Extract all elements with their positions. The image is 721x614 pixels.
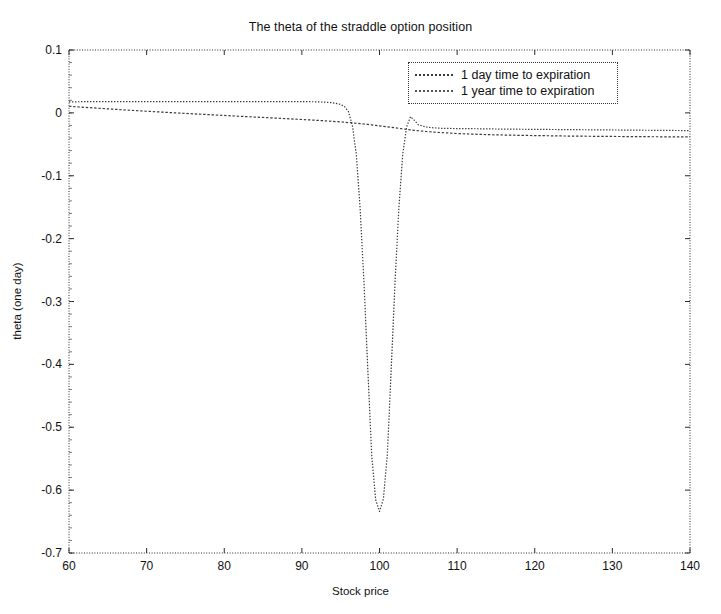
data-series xyxy=(69,102,690,512)
legend: 1 day time to expiration 1 year time to … xyxy=(408,62,618,104)
x-tick-label: 70 xyxy=(140,559,153,573)
x-axis-label: Stock price xyxy=(0,585,721,597)
y-tick-label: -0.5 xyxy=(14,420,62,434)
legend-item-1-day: 1 day time to expiration xyxy=(415,67,609,83)
legend-label-1-year: 1 year time to expiration xyxy=(461,84,594,98)
x-tick-label: 140 xyxy=(680,559,700,573)
legend-line-sample-dashed-icon xyxy=(415,90,453,92)
x-tick-label: 80 xyxy=(218,559,231,573)
legend-label-1-day: 1 day time to expiration xyxy=(461,68,590,82)
y-tick-label: -0.1 xyxy=(14,169,62,183)
x-tick-label: 130 xyxy=(602,559,622,573)
legend-item-1-year: 1 year time to expiration xyxy=(415,83,609,99)
y-tick-label: 0.1 xyxy=(14,43,62,57)
x-tick-label: 120 xyxy=(525,559,545,573)
y-tick-label: 0 xyxy=(14,106,62,120)
x-tick-label: 60 xyxy=(62,559,75,573)
x-tick-label: 90 xyxy=(295,559,308,573)
y-axis-label: theta (one day) xyxy=(11,221,23,381)
y-tick-label: -0.6 xyxy=(14,483,62,497)
figure-canvas: The theta of the straddle option positio… xyxy=(0,0,721,614)
x-tick-label: 100 xyxy=(369,559,389,573)
y-tick-label: -0.7 xyxy=(14,546,62,560)
legend-line-sample-dotted-icon xyxy=(415,74,453,76)
x-tick-label: 110 xyxy=(448,559,467,573)
